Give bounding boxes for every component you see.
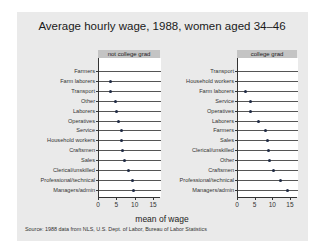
- y-tick: [96, 130, 98, 131]
- y-tick: [96, 101, 98, 102]
- y-tick: [96, 160, 98, 161]
- y-tick: [235, 130, 237, 131]
- category-label: Farmers: [5, 68, 95, 74]
- category-label: Laborers: [144, 118, 234, 124]
- x-tick: [272, 197, 273, 200]
- category-label: Laborers: [5, 108, 95, 114]
- gridline: [238, 170, 298, 171]
- category-label: Craftsmen: [144, 167, 234, 173]
- data-point: [249, 110, 252, 113]
- gridline: [238, 71, 298, 72]
- y-tick: [96, 170, 98, 171]
- category-label: Professional/technical: [144, 177, 234, 183]
- category-label: Other: [5, 98, 95, 104]
- category-label: Household workers: [5, 137, 95, 143]
- category-label: Other: [144, 157, 234, 163]
- x-tick-label: 0: [91, 201, 105, 208]
- gridline: [238, 91, 298, 92]
- y-tick: [96, 150, 98, 151]
- x-tick-label: 5: [248, 201, 262, 208]
- x-tick: [237, 197, 238, 200]
- x-tick: [153, 197, 154, 200]
- y-tick: [96, 121, 98, 122]
- x-tick: [255, 197, 256, 200]
- data-point: [115, 110, 118, 113]
- x-tick: [98, 197, 99, 200]
- y-tick: [235, 160, 237, 161]
- gridline: [238, 180, 298, 181]
- y-tick: [235, 91, 237, 92]
- x-tick: [135, 197, 136, 200]
- data-point: [123, 159, 126, 162]
- x-tick: [116, 197, 117, 200]
- data-point: [244, 90, 247, 93]
- gridline: [238, 101, 298, 102]
- x-axis: [98, 197, 160, 198]
- category-label: Sales: [5, 157, 95, 163]
- data-point: [132, 189, 135, 192]
- x-tick: [290, 197, 291, 200]
- category-label: Operatives: [144, 108, 234, 114]
- category-label: Farm laborers: [144, 88, 234, 94]
- gridline: [238, 121, 298, 122]
- gridline: [238, 130, 298, 131]
- category-label: Craftsmen: [5, 147, 95, 153]
- category-label: Service: [144, 98, 234, 104]
- category-label: Managers/admin: [144, 187, 234, 193]
- panel-strip-label: not college grad: [98, 50, 160, 58]
- data-point: [279, 179, 282, 182]
- y-tick: [235, 71, 237, 72]
- y-tick: [96, 140, 98, 141]
- source-note: Source: 1988 data from NLS, U.S. Dept. o…: [25, 226, 207, 232]
- data-point: [286, 189, 289, 192]
- y-tick: [235, 180, 237, 181]
- data-point: [109, 80, 112, 83]
- x-axis-label: mean of wage: [0, 214, 324, 224]
- category-label: Operatives: [5, 118, 95, 124]
- category-label: Managers/admin: [5, 187, 95, 193]
- x-axis: [237, 197, 297, 198]
- y-tick: [235, 140, 237, 141]
- category-label: Farmers: [144, 127, 234, 133]
- data-point: [131, 179, 134, 182]
- x-tick-label: 15: [283, 201, 297, 208]
- y-tick: [235, 111, 237, 112]
- y-tick: [96, 180, 98, 181]
- y-tick: [96, 91, 98, 92]
- y-tick: [96, 81, 98, 82]
- y-tick: [235, 170, 237, 171]
- y-tick: [96, 71, 98, 72]
- category-label: Transport: [144, 68, 234, 74]
- x-tick-label: 10: [128, 201, 142, 208]
- category-label: Farm laborers: [5, 78, 95, 84]
- gridline: [238, 81, 298, 82]
- x-tick-label: 0: [230, 201, 244, 208]
- gridline: [238, 111, 298, 112]
- category-label: Transport: [5, 88, 95, 94]
- data-point: [109, 90, 112, 93]
- category-label: Professional/technical: [5, 177, 95, 183]
- y-tick: [235, 81, 237, 82]
- category-label: Sales: [144, 137, 234, 143]
- panel-strip-label: college grad: [237, 50, 297, 58]
- plot-area: [237, 58, 298, 197]
- category-label: Household workers: [144, 78, 234, 84]
- y-tick: [235, 150, 237, 151]
- category-label: Clerical/unskilled: [144, 147, 234, 153]
- x-tick-label: 15: [146, 201, 160, 208]
- chart-title: Average hourly wage, 1988, women aged 34…: [0, 20, 324, 32]
- y-tick: [235, 101, 237, 102]
- category-label: Clerical/unskilled: [5, 167, 95, 173]
- y-tick: [235, 190, 237, 191]
- y-tick: [96, 190, 98, 191]
- x-tick-label: 10: [265, 201, 279, 208]
- y-tick: [235, 121, 237, 122]
- data-point: [114, 100, 117, 103]
- category-label: Service: [5, 127, 95, 133]
- y-tick: [96, 111, 98, 112]
- gridline: [238, 190, 298, 191]
- x-tick-label: 5: [109, 201, 123, 208]
